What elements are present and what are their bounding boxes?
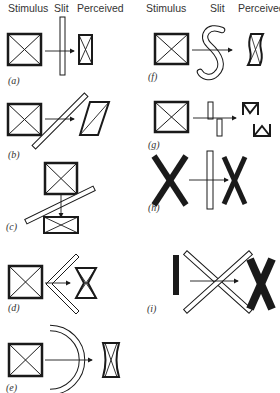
slit-x-shape: [184, 251, 253, 314]
panel-e: (e): [6, 328, 119, 393]
panel-d: (d): [8, 254, 96, 314]
perceived-shape: [248, 34, 263, 65]
perceived-shape: [44, 217, 78, 233]
panel-a: (a): [8, 17, 92, 87]
perceived-shape: [76, 268, 96, 298]
stimulus-box: [9, 344, 42, 376]
slit-chevron: [46, 254, 79, 314]
header-perceived-right: Perceived: [238, 2, 280, 14]
stimulus-box: [8, 34, 41, 65]
left-column-headers: Stimulus Slit Perceived: [8, 2, 124, 14]
panel-label: (f): [148, 71, 158, 83]
panel-label: (g): [148, 139, 160, 151]
header-stimulus-right: Stimulus: [146, 2, 186, 14]
stimulus-box: [9, 266, 42, 298]
stimulus-bold-x: [154, 156, 186, 205]
stimulus-box: [45, 163, 77, 194]
stimulus-box: [155, 34, 188, 64]
panel-label: (b): [8, 149, 20, 161]
header-slit-right: Slit: [210, 2, 225, 14]
panel-g: (g): [148, 102, 270, 151]
panel-b: (b): [8, 93, 109, 161]
perceived-shape: [79, 35, 92, 64]
panel-i: (i): [147, 251, 272, 315]
panel-label: (d): [8, 302, 20, 314]
perceived-shape: [103, 343, 119, 377]
panel-h: (h): [148, 151, 245, 214]
header-slit-left: Slit: [54, 2, 69, 14]
slit-diagonal-shallow: [25, 186, 96, 224]
stimulus-box: [155, 102, 188, 132]
panel-label: (h): [148, 202, 160, 214]
panel-label: (c): [6, 221, 18, 233]
perceived-shape: [80, 102, 109, 135]
stimulus-box: [8, 104, 41, 135]
perceived-shape: [243, 103, 270, 136]
header-perceived-left: Perceived: [77, 2, 124, 14]
slit-vertical: [60, 17, 65, 75]
panel-c: (c): [6, 163, 95, 233]
slit-split-offset: [208, 102, 222, 136]
slit-s-curve: [200, 28, 222, 77]
right-column-headers: Stimulus Slit Perceived: [146, 2, 280, 14]
header-stimulus-left: Stimulus: [8, 2, 48, 14]
panel-label: (i): [147, 303, 157, 315]
perceived-narrow-x: [224, 157, 245, 204]
stimulus-bold-bar: [173, 255, 179, 295]
anorthoscopic-perception-diagram: Stimulus Slit Perceived Stimulus Slit Pe…: [0, 0, 280, 393]
panel-label: (a): [8, 75, 20, 87]
perceived-bold-x: [250, 259, 272, 309]
panel-label: (e): [6, 382, 18, 393]
panel-f: (f): [148, 28, 263, 83]
